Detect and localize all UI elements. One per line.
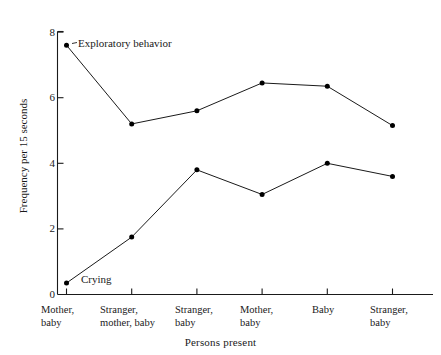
x-category-label-5-line2: baby	[370, 317, 408, 330]
x-category-label-4-line1: Baby	[312, 304, 334, 317]
y-tick-label-2: 2	[33, 223, 55, 234]
data-point-s1-4	[325, 161, 330, 166]
x-category-label-0: Mother, baby	[41, 304, 74, 329]
data-point-s1-5	[390, 174, 395, 179]
x-category-label-2-line2: baby	[175, 317, 213, 330]
x-category-label-3: Mother, baby	[240, 304, 273, 329]
data-point-s0-4	[325, 84, 330, 89]
x-category-label-4: Baby	[312, 304, 334, 317]
x-axis-title: Persons present	[0, 336, 441, 348]
y-axis-title: Frequency per 15 seconds	[17, 81, 29, 231]
data-point-s0-0	[64, 43, 69, 48]
series-line-0	[67, 45, 393, 125]
x-category-label-3-line2: baby	[240, 317, 273, 330]
x-category-label-3-line1: Mother,	[240, 304, 273, 317]
data-point-s0-3	[260, 80, 265, 85]
y-tick-label-8: 8	[33, 27, 55, 38]
x-category-label-2: Stranger, baby	[175, 304, 213, 329]
data-point-s0-5	[390, 123, 395, 128]
data-point-s1-1	[129, 235, 134, 240]
series-label-crying: Crying	[81, 274, 112, 285]
data-point-s1-0	[64, 281, 69, 286]
x-category-label-0-line1: Mother,	[41, 304, 74, 317]
x-category-label-0-line2: baby	[41, 317, 74, 330]
series-line-1	[67, 163, 393, 283]
y-tick-label-0: 0	[33, 289, 55, 300]
data-point-s0-1	[129, 121, 134, 126]
data-point-s1-3	[260, 192, 265, 197]
y-tick-label-6: 6	[33, 92, 55, 103]
plot-area	[0, 0, 441, 355]
x-category-label-1-line2: mother, baby	[100, 317, 155, 330]
annotation-leader-exploratory	[72, 43, 77, 44]
data-point-s1-2	[194, 167, 199, 172]
y-tick-label-4: 4	[33, 158, 55, 169]
data-point-s0-2	[194, 108, 199, 113]
x-category-label-5: Stranger, baby	[370, 304, 408, 329]
series-label-exploratory-behavior: Exploratory behavior	[78, 38, 172, 49]
x-category-label-2-line1: Stranger,	[175, 304, 213, 317]
line-chart: 8 6 4 2 0 Frequency per 15 seconds Mothe…	[0, 0, 441, 355]
x-category-label-1-line1: Stranger,	[100, 304, 155, 317]
x-category-label-1: Stranger, mother, baby	[100, 304, 155, 329]
x-category-label-5-line1: Stranger,	[370, 304, 408, 317]
